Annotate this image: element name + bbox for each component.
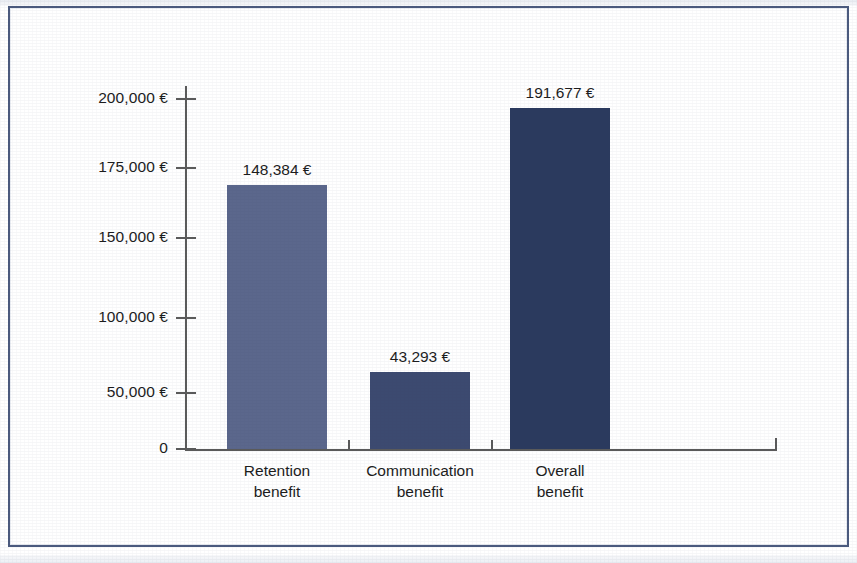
x-axis-line [185, 449, 777, 451]
y-tick-label: 0 [48, 439, 168, 457]
bar-retention-benefit[interactable] [227, 185, 327, 449]
bar-communication-benefit[interactable] [370, 372, 470, 449]
y-axis-line [185, 86, 187, 451]
y-tick-label: 100,000 € [48, 308, 168, 326]
plot-area: 200,000 € 175,000 € 150,000 € 100,000 € … [10, 8, 851, 549]
x-axis-right-cap [775, 438, 777, 451]
bar-value-label: 43,293 € [340, 348, 500, 366]
y-tick-mark [176, 317, 196, 319]
y-tick-mark [176, 392, 196, 394]
y-tick-mark [176, 167, 196, 169]
y-tick-label: 50,000 € [48, 383, 168, 401]
x-category-label-overall: Overall benefit [465, 461, 655, 503]
y-tick-label: 150,000 € [48, 228, 168, 246]
bar-value-label: 191,677 € [480, 84, 640, 102]
y-tick-label: 200,000 € [48, 89, 168, 107]
x-category-line-2: benefit [465, 482, 655, 503]
x-tick-mark [348, 440, 350, 450]
y-tick-mark [176, 237, 196, 239]
bar-overall-benefit[interactable] [510, 108, 610, 449]
chart-page: 200,000 € 175,000 € 150,000 € 100,000 € … [0, 0, 857, 563]
y-tick-mark [176, 448, 196, 450]
x-tick-mark [491, 440, 493, 450]
scan-edge-bottom [0, 555, 857, 563]
x-category-line-1: Overall [465, 461, 655, 482]
bar-value-label: 148,384 € [197, 161, 357, 179]
y-tick-label: 175,000 € [48, 158, 168, 176]
y-axis-tick-labels: 200,000 € 175,000 € 150,000 € 100,000 € … [40, 8, 168, 549]
chart-frame-border: 200,000 € 175,000 € 150,000 € 100,000 € … [8, 6, 849, 547]
y-tick-mark [176, 98, 196, 100]
